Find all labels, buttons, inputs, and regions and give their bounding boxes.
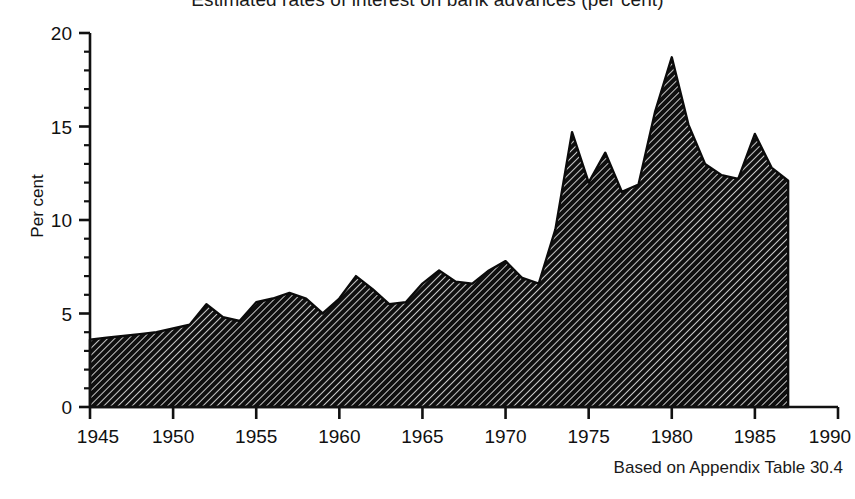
- y-tick-label-20: 20: [51, 23, 72, 44]
- x-tick-label-1975: 1975: [568, 426, 610, 447]
- x-tick-label-1950: 1950: [152, 426, 194, 447]
- x-tick-label-1965: 1965: [401, 426, 443, 447]
- x-tick-label-1955: 1955: [235, 426, 277, 447]
- y-axis-tick-labels: 05101520: [51, 23, 72, 418]
- x-tick-label-1980: 1980: [651, 426, 693, 447]
- x-tick-label-1985: 1985: [734, 426, 776, 447]
- series-area-interest-rate: [90, 57, 788, 407]
- chart-plot-area: 05101520 1945195019551960196519701975198…: [0, 0, 855, 499]
- y-axis-ticks: [79, 33, 90, 407]
- x-axis-tick-labels: 1945195019551960196519701975198019851990: [77, 426, 851, 447]
- y-tick-label-10: 10: [51, 210, 72, 231]
- x-axis-ticks: [90, 407, 838, 419]
- x-tick-label-1970: 1970: [484, 426, 526, 447]
- y-tick-label-15: 15: [51, 117, 72, 138]
- x-tick-label-1990: 1990: [809, 426, 851, 447]
- x-tick-label-1945: 1945: [77, 426, 119, 447]
- y-tick-label-5: 5: [61, 304, 72, 325]
- area-fill: [90, 57, 788, 407]
- x-tick-label-1960: 1960: [318, 426, 360, 447]
- source-note: Based on Appendix Table 30.4: [614, 458, 843, 478]
- chart-page: Estimated rates of interest on bank adva…: [0, 0, 855, 499]
- y-tick-label-0: 0: [61, 397, 72, 418]
